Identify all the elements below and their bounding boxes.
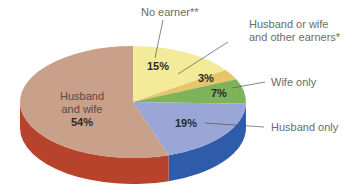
- label-no-earner: No earner**: [141, 6, 198, 19]
- percent-no-earner: 15%: [147, 60, 169, 72]
- label-husband-wife-line1: Husband: [56, 90, 108, 103]
- label-husband-only: Husband only: [271, 121, 338, 134]
- percent-wife-only: 7%: [211, 87, 227, 99]
- label-other-earners-line1: Husband or wife: [249, 18, 329, 31]
- label-husband-wife-line2: and wife: [56, 103, 108, 116]
- percent-other-earners: 3%: [198, 72, 214, 84]
- label-wife-only: Wife only: [271, 76, 316, 89]
- label-other-earners-line2: and other earners*: [249, 31, 340, 44]
- percent-husband-only: 19%: [175, 117, 197, 129]
- percent-husband-wife: 54%: [59, 116, 105, 128]
- pie-top-face: [20, 46, 246, 158]
